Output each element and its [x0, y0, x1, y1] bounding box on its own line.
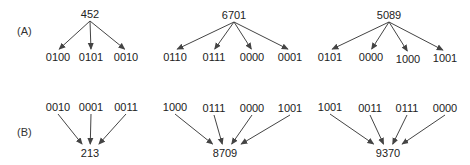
bcd-digit: 0000: [240, 103, 264, 114]
row-a-label: (A): [17, 25, 32, 37]
bcd-digit: 0010: [46, 102, 70, 113]
bcd-digit: 0111: [203, 52, 226, 63]
arrow-converge: [402, 115, 445, 144]
bcd-digit: 0101: [79, 52, 103, 63]
bcd-digit: 0111: [396, 103, 419, 114]
decimal-number: 5089: [377, 10, 401, 21]
bcd-digit: 0110: [163, 52, 187, 63]
arrow-converge: [90, 114, 91, 144]
bcd-digit: 1001: [318, 102, 342, 113]
arrow-converge: [175, 114, 213, 144]
bcd-digit: 0010: [114, 52, 138, 63]
bcd-digit: 0000: [240, 52, 264, 63]
bcd-digit: 1001: [433, 53, 457, 64]
bcd-conversion-diagram: (A) (B) 45201000101001067010110011100000…: [0, 0, 470, 165]
arrow-down: [90, 21, 125, 49]
bcd-digit: 0100: [46, 52, 70, 63]
arrow-converge: [214, 115, 222, 144]
arrow-converge: [393, 115, 407, 144]
arrow-converge: [370, 115, 384, 144]
bcd-digit: 0001: [278, 52, 302, 63]
row-b-label: (B): [17, 126, 32, 138]
arrow-down: [59, 21, 90, 49]
arrow-down: [90, 21, 91, 49]
bcd-digit: 0101: [318, 52, 342, 63]
bcd-digit: 1000: [163, 102, 187, 113]
decimal-result: 9370: [376, 148, 400, 159]
decimal-result: 213: [81, 148, 99, 159]
decimal-number: 452: [81, 9, 99, 20]
arrow-converge: [99, 114, 126, 144]
bcd-digit: 0111: [203, 103, 226, 114]
arrow-down: [389, 22, 443, 50]
bcd-digit: 0000: [359, 52, 383, 63]
arrow-converge: [58, 114, 82, 144]
bcd-digit: 1000: [396, 54, 420, 65]
decimal-number: 6701: [222, 10, 246, 21]
arrow-converge: [330, 114, 374, 144]
bcd-digit: 0000: [433, 103, 457, 114]
bcd-digit: 0011: [358, 103, 382, 114]
bcd-digit: 1001: [278, 103, 302, 114]
bcd-digit: 0001: [79, 102, 103, 113]
decimal-result: 8709: [213, 148, 237, 159]
bcd-digit: 0011: [114, 102, 138, 113]
arrows-layer: [0, 0, 470, 165]
arrow-down: [177, 22, 234, 49]
